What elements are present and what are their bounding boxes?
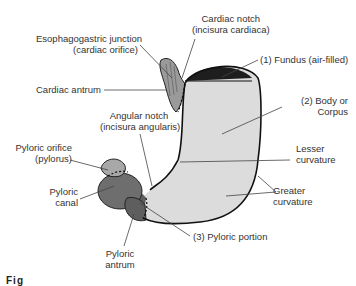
label-greater-curvature: Greater curvature xyxy=(273,185,313,207)
label-pyloric-canal: Pyloric canal xyxy=(40,186,78,208)
label-angular-notch: Angular notch (incisura angularis) xyxy=(100,110,178,132)
label-esophagogastric-junction: Esophagogastric junction (cardiac orific… xyxy=(36,33,138,55)
label-cardiac-antrum: Cardiac antrum xyxy=(36,84,101,95)
figure-caption-truncated: Fig xyxy=(6,275,24,286)
label-pyloric-portion: (3) Pyloric portion xyxy=(193,231,267,242)
label-body-corpus: (2) Body or Corpus xyxy=(270,95,348,117)
label-pyloric-orifice: Pyloric orifice (pylorus) xyxy=(10,142,72,164)
label-lesser-curvature: Lesser curvature xyxy=(296,143,336,165)
pyloric-orifice-region xyxy=(101,159,125,177)
label-fundus: (1) Fundus (air-filled) xyxy=(260,54,348,65)
label-cardiac-notch: Cardiac notch (incisura cardiaca) xyxy=(192,13,270,35)
label-pyloric-antrum: Pyloric antrum xyxy=(98,248,142,270)
